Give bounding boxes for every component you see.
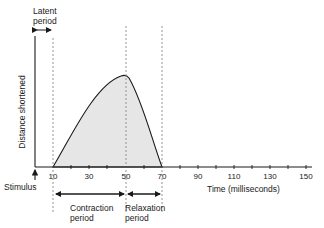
tick-label: 90 (194, 172, 203, 181)
x-axis-label: Time (milliseconds) (207, 184, 280, 194)
y-axis-label: Distance shortened (17, 75, 27, 148)
tick-label: 50 (122, 172, 131, 181)
tick-label: 110 (228, 172, 241, 181)
relaxation-label-2: period (125, 213, 149, 223)
contraction-label-1: Contraction (70, 203, 113, 213)
tick-label: 30 (85, 172, 94, 181)
stimulus-label: Stimulus (4, 182, 37, 192)
contraction-label-2: period (70, 213, 94, 223)
tick-label: 130 (263, 172, 276, 181)
tick-label: 10 (49, 172, 58, 181)
twitch-curve (53, 75, 162, 167)
relaxation-label-1: Relaxation (125, 203, 165, 213)
tick-label: 150 (299, 172, 312, 181)
latent-label-2: period (33, 16, 57, 26)
latent-label-1: Latent (33, 6, 57, 16)
tick-label: 70 (158, 172, 167, 181)
